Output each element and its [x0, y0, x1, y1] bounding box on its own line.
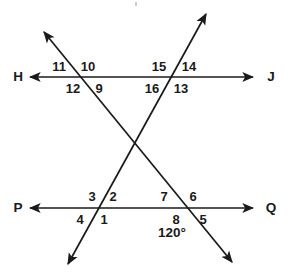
- angle-label-4: 4: [76, 213, 83, 226]
- angle-label-10: 10: [81, 60, 95, 73]
- endpoint-label-H: H: [13, 70, 23, 84]
- transversal-a: [44, 32, 232, 262]
- endpoint-label-J: J: [267, 70, 275, 84]
- angle-label-2: 2: [109, 190, 116, 203]
- angle-label-13: 13: [174, 82, 188, 95]
- angle-label-11: 11: [52, 60, 66, 73]
- angle-label-7: 7: [160, 190, 167, 203]
- scan-artifact-speck: [135, 2, 137, 6]
- figure-canvas: [0, 0, 293, 278]
- angle-label-8: 8: [172, 213, 179, 226]
- angle-label-5: 5: [199, 213, 206, 226]
- angle-label-6: 6: [189, 190, 196, 203]
- angle-label-9: 9: [95, 82, 102, 95]
- angle-label-1: 1: [100, 213, 107, 226]
- angle-label-3: 3: [88, 190, 95, 203]
- geometry-figure: H J P Q 11 10 12 9 15 14 16 13 3 2 4 1 7…: [0, 0, 293, 278]
- angle-label-15: 15: [152, 60, 166, 73]
- angle-label-16: 16: [145, 82, 159, 95]
- angle-measure-120: 120°: [158, 226, 186, 240]
- endpoint-label-Q: Q: [266, 201, 277, 215]
- angle-label-14: 14: [182, 60, 196, 73]
- endpoint-label-P: P: [13, 201, 22, 215]
- angle-label-12: 12: [66, 82, 80, 95]
